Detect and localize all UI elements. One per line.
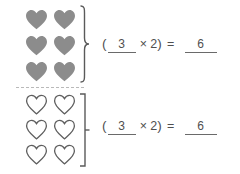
multiplier-value: 2 — [150, 37, 157, 51]
close-paren: ) — [157, 36, 162, 51]
filled-heart-icon — [53, 61, 76, 82]
open-paren: ( — [102, 36, 107, 51]
filled-heart-icon — [53, 35, 76, 56]
filled-heart-icon — [25, 61, 48, 82]
outline-heart-icon — [53, 94, 76, 115]
outline-heart-icon — [53, 144, 76, 165]
square-bracket — [78, 93, 94, 167]
result-blank[interactable]: 6 — [185, 37, 217, 53]
filled-heart-icon — [25, 9, 48, 30]
filled-heart-icon — [25, 35, 48, 56]
equation-filled: ( 3 × 2 ) = 6 — [102, 36, 217, 53]
times-symbol: × — [140, 119, 148, 133]
multiplication-worksheet: ( 3 × 2 ) = 6 — [0, 0, 240, 174]
equation-outline: ( 3 × 2 ) = 6 — [102, 118, 217, 135]
open-paren: ( — [102, 118, 107, 133]
equals-symbol: = — [167, 37, 175, 51]
outline-heart-icon — [25, 119, 48, 140]
result-blank[interactable]: 6 — [185, 119, 217, 135]
factor-blank[interactable]: 3 — [108, 119, 136, 135]
outline-heart-icon — [53, 119, 76, 140]
heart-grid-outline — [22, 92, 78, 167]
factor-blank[interactable]: 3 — [108, 37, 136, 53]
filled-heart-icon — [53, 9, 76, 30]
multiplier-value: 2 — [150, 119, 157, 133]
close-paren: ) — [157, 118, 162, 133]
curly-brace — [78, 5, 94, 83]
outline-heart-icon — [25, 144, 48, 165]
equals-symbol: = — [167, 119, 175, 133]
times-symbol: × — [140, 37, 148, 51]
outline-heart-icon — [25, 94, 48, 115]
heart-grid-filled — [22, 6, 78, 84]
